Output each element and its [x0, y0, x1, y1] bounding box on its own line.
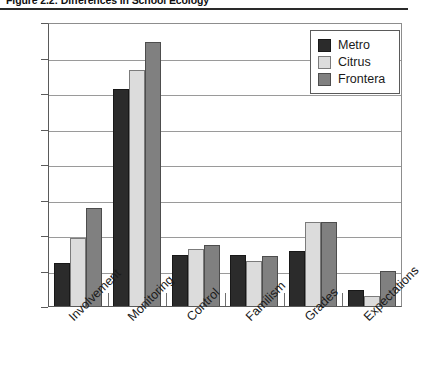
y-tick-mark — [41, 201, 48, 202]
legend-item: Citrus — [318, 54, 393, 70]
legend-swatch — [318, 56, 331, 69]
y-tick-mark — [41, 236, 48, 237]
y-tick-mark — [41, 307, 48, 308]
bar — [289, 251, 305, 306]
x-tick-mark — [284, 293, 285, 306]
bar-group — [225, 24, 284, 306]
legend-swatch — [318, 39, 331, 52]
y-tick-mark — [41, 59, 48, 60]
legend-item: Metro — [318, 37, 393, 53]
x-tick-mark — [166, 293, 167, 306]
bar — [129, 70, 145, 306]
legend-label: Citrus — [338, 55, 371, 69]
y-tick-mark — [41, 272, 48, 273]
legend-label: Frontera — [338, 72, 385, 86]
bar-group — [108, 24, 167, 306]
y-tick-mark — [41, 165, 48, 166]
bar — [230, 255, 246, 306]
y-tick-mark — [41, 23, 48, 24]
legend-swatch — [318, 73, 331, 86]
y-tick-mark — [41, 130, 48, 131]
title-divider — [0, 8, 408, 10]
bar — [54, 263, 70, 306]
y-tick-mark — [41, 94, 48, 95]
figure-title: Figure 2.2: Differences in School Ecolog… — [6, 0, 209, 6]
x-tick-mark — [108, 293, 109, 306]
legend-item: Frontera — [318, 71, 393, 87]
legend: MetroCitrusFrontera — [310, 30, 400, 94]
x-tick-mark — [225, 293, 226, 306]
bar-group — [166, 24, 225, 306]
x-tick-mark — [342, 293, 343, 306]
bar-group — [49, 24, 108, 306]
bar — [348, 290, 364, 306]
bar — [305, 222, 321, 306]
bar — [145, 42, 161, 306]
legend-label: Metro — [338, 38, 370, 52]
